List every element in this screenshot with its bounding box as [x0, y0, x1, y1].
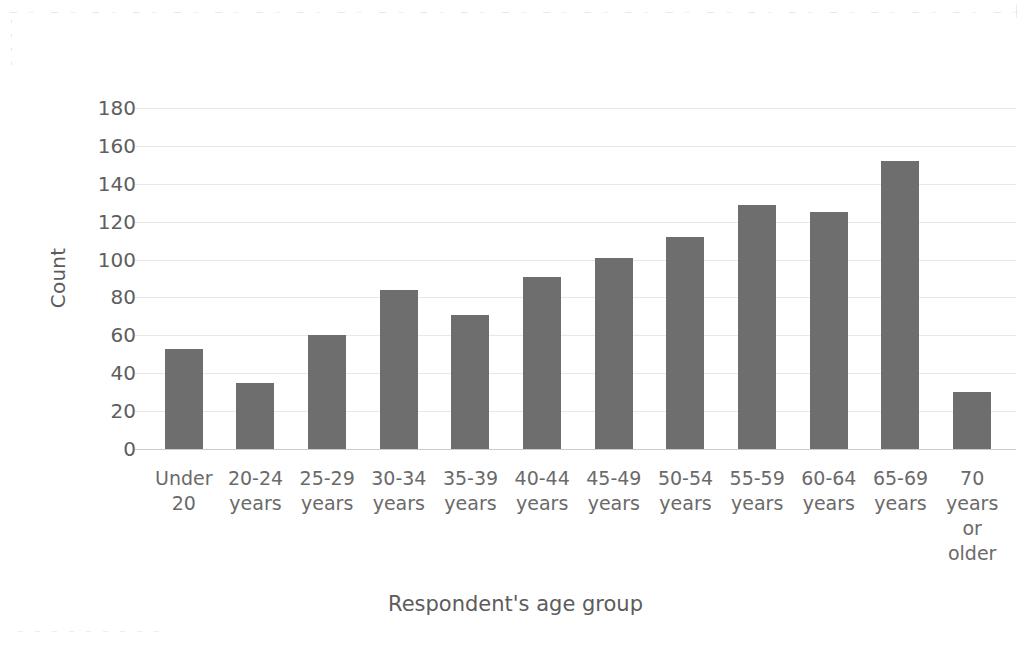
bar-slot [435, 108, 507, 449]
bar-slot [578, 108, 650, 449]
bar[interactable] [165, 349, 203, 449]
x-axis-tick-label: 50-54 years [650, 466, 722, 516]
y-axis-tick-label: 40 [64, 363, 136, 383]
bar[interactable] [236, 383, 274, 449]
y-axis-tick-label: 180 [64, 98, 136, 118]
y-axis-tick-label: 0 [64, 439, 136, 459]
bar-slot [506, 108, 578, 449]
y-axis-tick-label: 120 [64, 212, 136, 232]
bar[interactable] [881, 161, 919, 449]
bar-slot [650, 108, 722, 449]
bar-slot [865, 108, 937, 449]
bar[interactable] [523, 277, 561, 449]
x-axis-tick-label: 40-44 years [506, 466, 578, 516]
y-axis-tick-label: 60 [64, 325, 136, 345]
bar-chart: Count 020406080100120140160180 Under 202… [0, 0, 1031, 654]
x-axis-tick-label: 60-64 years [793, 466, 865, 516]
bar[interactable] [953, 392, 991, 449]
y-axis-tick-label: 80 [64, 287, 136, 307]
bar-slot [721, 108, 793, 449]
bar[interactable] [595, 258, 633, 449]
scan-artifact-bottom [18, 631, 168, 632]
x-axis-tick-label: 35-39 years [435, 466, 507, 516]
x-axis-title: Respondent's age group [0, 592, 1031, 616]
bar-slot [936, 108, 1008, 449]
bar[interactable] [738, 205, 776, 449]
y-axis-tick-label: 160 [64, 136, 136, 156]
bar[interactable] [451, 315, 489, 450]
bar-slot [220, 108, 292, 449]
scan-artifact-left [11, 20, 12, 72]
bar-slot [793, 108, 865, 449]
y-axis-tick-labels: 020406080100120140160180 [64, 108, 136, 449]
bar-slot [363, 108, 435, 449]
x-axis-tick-label: 25-29 years [291, 466, 363, 516]
scan-artifact-top [10, 12, 1027, 13]
bar[interactable] [810, 212, 848, 449]
y-axis-tick-label: 20 [64, 401, 136, 421]
plot-area [148, 108, 1008, 449]
axis-baseline [134, 449, 1016, 450]
x-axis-tick-label: 70 years or older [936, 466, 1008, 566]
x-axis-tick-label: 65-69 years [865, 466, 937, 516]
bar[interactable] [308, 335, 346, 449]
x-axis-tick-label: 45-49 years [578, 466, 650, 516]
bar[interactable] [380, 290, 418, 449]
x-axis-tick-label: 55-59 years [721, 466, 793, 516]
x-axis-tick-label: 30-34 years [363, 466, 435, 516]
y-axis-tick-label: 100 [64, 250, 136, 270]
bar-slot [291, 108, 363, 449]
y-axis-tick-label: 140 [64, 174, 136, 194]
x-axis-tick-labels: Under 2020-24 years25-29 years30-34 year… [148, 466, 1008, 596]
x-axis-tick-label: Under 20 [148, 466, 220, 516]
x-axis-tick-label: 20-24 years [220, 466, 292, 516]
bar[interactable] [666, 237, 704, 449]
scan-artifact-right [1016, 4, 1017, 18]
bar-slot [148, 108, 220, 449]
